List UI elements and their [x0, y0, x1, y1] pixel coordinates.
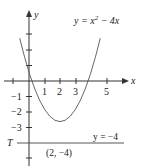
y-axis-arrow-icon	[26, 10, 32, 17]
x-tick-1: 1	[42, 86, 47, 97]
y-tick-neg3: −3	[11, 122, 22, 133]
x-tick-2: 2	[57, 86, 62, 97]
x-axis-arrow-icon	[122, 78, 129, 84]
tangent-equation-label: y = −4	[93, 132, 118, 142]
vertex-label: (2, −4)	[46, 148, 72, 159]
y-axis: y −1 −2 −3	[11, 9, 39, 166]
y-tick-neg1: −1	[11, 91, 22, 102]
x-axis-label: x	[130, 75, 136, 86]
parabola-graph: x 1 2 3 5 y −1 −2 −3 T y = −4 (2, −4) y …	[0, 0, 142, 167]
y-axis-label: y	[33, 9, 39, 20]
tangent-name-label: T	[7, 137, 14, 148]
x-tick-5: 5	[104, 86, 109, 97]
x-axis: x 1 2 3 5	[4, 75, 136, 97]
x-tick-3: 3	[73, 86, 78, 97]
y-tick-neg2: −2	[11, 106, 22, 117]
curve-equation-label: y = x2 − 4x	[73, 14, 120, 26]
